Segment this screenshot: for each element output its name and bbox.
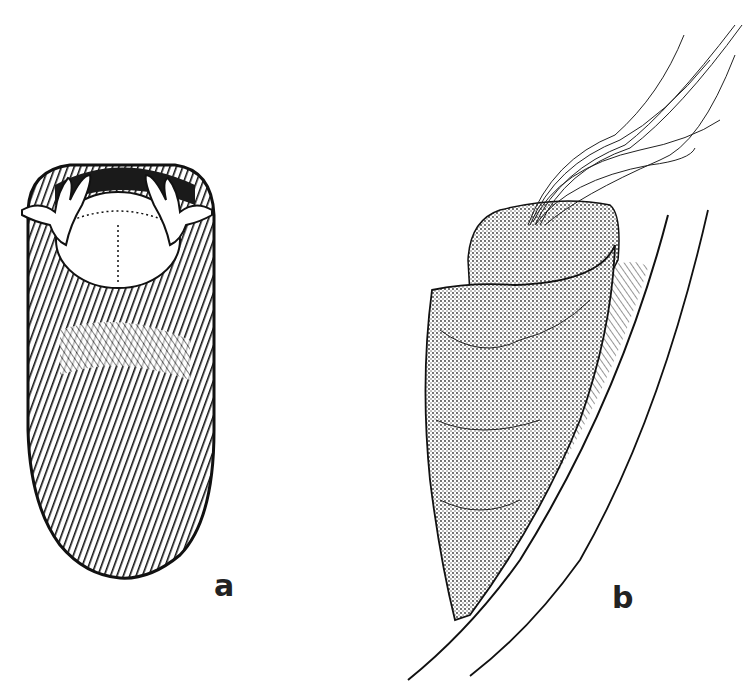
panel-b-drawing [408,25,742,680]
panel-a-drawing [22,165,214,578]
illustration-canvas: a b [0,0,748,698]
panel-a-label: a [214,568,234,603]
panel-b-label: b [612,580,633,615]
